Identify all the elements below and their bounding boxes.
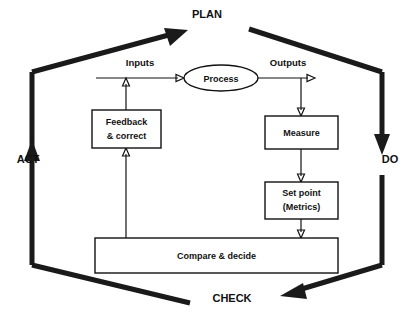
feedback-correct-box[interactable] — [92, 110, 161, 148]
set-point-metrics-node[interactable]: Set point (Metrics) — [265, 182, 338, 219]
do-to-check-arrowhead — [280, 283, 307, 299]
compare-decide-node[interactable]: Compare & decide — [95, 238, 338, 273]
act-to-plan-diagonal — [32, 33, 176, 72]
stage-label-plan: PLAN — [192, 8, 222, 20]
outputs-label: Outputs — [270, 57, 306, 68]
compare-decide-label: Compare & decide — [177, 251, 256, 261]
inputs-label: Inputs — [126, 57, 155, 68]
stage-label-do: DO — [382, 153, 399, 165]
diagram-canvas: Process Feedback & correct Measure Set p… — [0, 0, 414, 320]
set-point-label-line1: Set point — [282, 188, 321, 198]
feedback-correct-node[interactable]: Feedback & correct — [92, 110, 161, 148]
outputs-arrowhead — [307, 75, 315, 82]
measure-node[interactable]: Measure — [265, 116, 338, 149]
plan-to-do-arrowhead — [374, 134, 390, 155]
set-point-label-line2: (Metrics) — [283, 202, 321, 212]
act-to-plan-arrowhead — [164, 28, 188, 46]
pdca-diagram: Process Feedback & correct Measure Set p… — [0, 0, 414, 320]
process-node[interactable]: Process — [184, 65, 258, 91]
connector-check-to-act — [24, 140, 190, 303]
feedback-correct-label-line1: Feedback — [106, 117, 149, 127]
measure-label: Measure — [283, 128, 320, 138]
stage-label-check: CHECK — [212, 292, 251, 304]
process-label: Process — [203, 74, 238, 84]
stage-label-act: ACT — [17, 153, 40, 165]
feedback-correct-label-line2: & correct — [107, 131, 147, 141]
